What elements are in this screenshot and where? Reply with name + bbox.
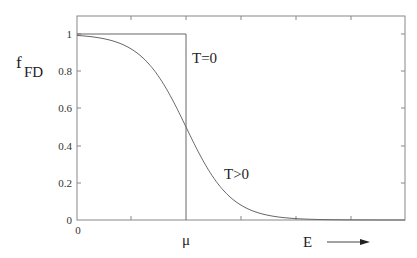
- label-t-zero: T=0: [192, 50, 217, 66]
- y-tick-label-0.4: 0.4: [58, 140, 72, 152]
- series-t-positive-curve: [77, 35, 405, 220]
- x-ticks-top: [131, 16, 351, 20]
- y-ticks-right: [401, 34, 405, 183]
- x-label-mu: μ: [182, 232, 190, 248]
- y-tick-label-0.8: 0.8: [58, 65, 72, 77]
- arrow-right-icon: [327, 239, 370, 245]
- x-tick-label-0: 0: [75, 224, 81, 236]
- y-tick-label-0: 0: [67, 214, 73, 226]
- x-axis-label-e: E: [303, 234, 312, 250]
- y-axis-label-f: f: [16, 53, 22, 72]
- y-tick-label-0.2: 0.2: [58, 177, 72, 189]
- y-ticks-left: [77, 34, 81, 183]
- series-t-zero-step: [77, 34, 186, 220]
- label-t-positive: T>0: [224, 166, 249, 182]
- y-axis-label-subscript: FD: [24, 64, 43, 80]
- y-tick-label-1: 1: [67, 28, 73, 40]
- y-tick-label-0.6: 0.6: [58, 102, 72, 114]
- fermi-dirac-chart: 1 0.8 0.6 0.4 0.2 0 0 T=0 T>0 f FD μ E: [0, 0, 417, 258]
